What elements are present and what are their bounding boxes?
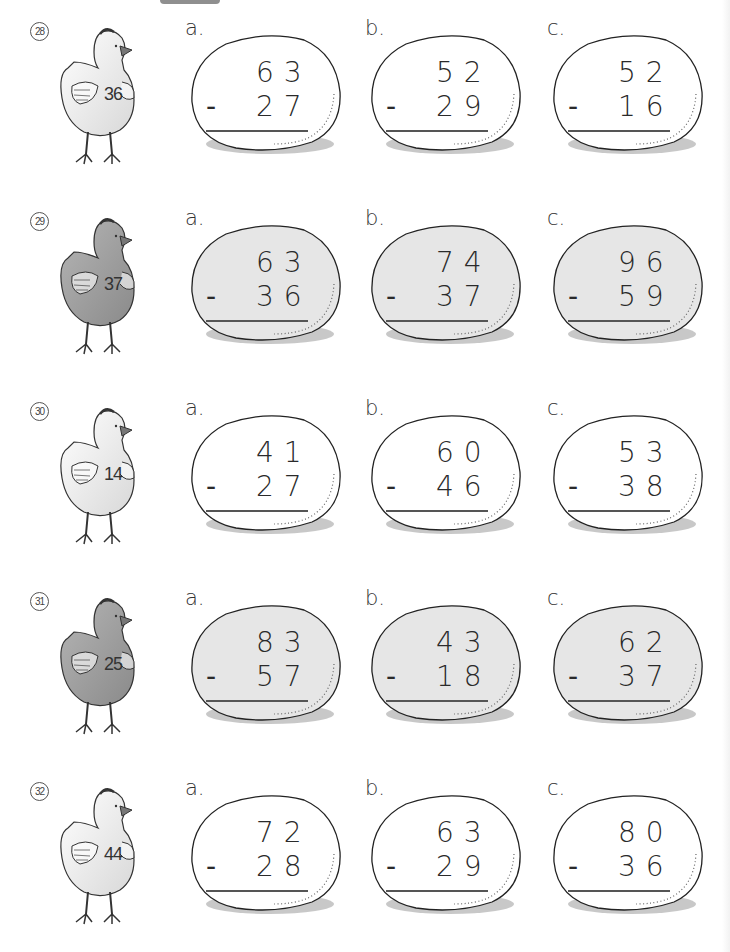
chicken-number: 44 xyxy=(104,844,122,865)
answer-line xyxy=(386,890,488,892)
problem-row: 30 14 a xyxy=(0,390,730,580)
subtrahend: 28 xyxy=(256,850,336,883)
minuend: 52 xyxy=(618,56,698,89)
minuend: 41 xyxy=(256,436,336,469)
chicken-number: 14 xyxy=(104,464,122,485)
egg: 80 - 36 xyxy=(548,792,708,918)
minuend: 60 xyxy=(436,436,516,469)
subtraction-problem: b. 52 - 29 xyxy=(362,16,532,166)
answer-area[interactable] xyxy=(216,516,306,538)
chicken-illustration: 37 xyxy=(50,212,150,362)
minus-sign: - xyxy=(386,660,396,693)
egg: 74 - 37 xyxy=(366,222,526,348)
answer-area[interactable] xyxy=(216,896,306,918)
minus-sign: - xyxy=(206,470,216,503)
answer-area[interactable] xyxy=(396,896,486,918)
chicken-icon xyxy=(50,402,150,552)
egg: 63 - 36 xyxy=(186,222,346,348)
minus-sign: - xyxy=(206,90,216,123)
minuend: 43 xyxy=(436,626,516,659)
minus-sign: - xyxy=(568,90,578,123)
minuend: 63 xyxy=(256,246,336,279)
answer-line xyxy=(568,890,670,892)
subtrahend: 29 xyxy=(436,850,516,883)
minus-sign: - xyxy=(568,280,578,313)
answer-line xyxy=(386,320,488,322)
minus-sign: - xyxy=(386,850,396,883)
chicken-number: 36 xyxy=(104,84,122,105)
subtrahend: 27 xyxy=(256,90,336,123)
minus-sign: - xyxy=(206,280,216,313)
problem-row: 29 37 a xyxy=(0,200,730,390)
top-edge-artifact xyxy=(160,0,220,4)
subtraction-problem: b. 63 - 29 xyxy=(362,776,532,926)
answer-area[interactable] xyxy=(578,896,668,918)
answer-line xyxy=(206,510,308,512)
subtrahend: 38 xyxy=(618,470,698,503)
answer-line xyxy=(206,700,308,702)
problem-number: 31 xyxy=(30,592,49,611)
subtraction-problem: a. 41 - 27 xyxy=(182,396,352,546)
subtraction-problem: c. 52 - 16 xyxy=(544,16,714,166)
answer-area[interactable] xyxy=(578,516,668,538)
minuend: 63 xyxy=(436,816,516,849)
egg: 60 - 46 xyxy=(366,412,526,538)
egg: 63 - 29 xyxy=(366,792,526,918)
answer-area[interactable] xyxy=(216,706,306,728)
answer-area[interactable] xyxy=(216,136,306,158)
answer-line xyxy=(568,510,670,512)
answer-line xyxy=(206,890,308,892)
egg: 41 - 27 xyxy=(186,412,346,538)
answer-line xyxy=(386,130,488,132)
minus-sign: - xyxy=(386,90,396,123)
chicken-icon xyxy=(50,22,150,172)
subtraction-problem: c. 96 - 59 xyxy=(544,206,714,356)
answer-area[interactable] xyxy=(578,136,668,158)
egg: 52 - 29 xyxy=(366,32,526,158)
answer-area[interactable] xyxy=(216,326,306,348)
answer-line xyxy=(206,320,308,322)
answer-line xyxy=(206,130,308,132)
problem-number: 29 xyxy=(30,212,49,231)
answer-line xyxy=(386,510,488,512)
egg: 43 - 18 xyxy=(366,602,526,728)
minuend: 83 xyxy=(256,626,336,659)
answer-area[interactable] xyxy=(396,706,486,728)
subtraction-problem: a. 72 - 28 xyxy=(182,776,352,926)
subtraction-problem: b. 74 - 37 xyxy=(362,206,532,356)
subtraction-problem: b. 43 - 18 xyxy=(362,586,532,736)
subtraction-problem: a. 83 - 57 xyxy=(182,586,352,736)
answer-area[interactable] xyxy=(396,326,486,348)
answer-area[interactable] xyxy=(396,516,486,538)
minuend: 53 xyxy=(618,436,698,469)
subtraction-problem: c. 62 - 37 xyxy=(544,586,714,736)
chicken-icon xyxy=(50,212,150,362)
answer-area[interactable] xyxy=(578,706,668,728)
answer-line xyxy=(568,700,670,702)
subtrahend: 57 xyxy=(256,660,336,693)
egg: 62 - 37 xyxy=(548,602,708,728)
minuend: 74 xyxy=(436,246,516,279)
egg: 72 - 28 xyxy=(186,792,346,918)
chicken-icon xyxy=(50,592,150,742)
subtrahend: 59 xyxy=(618,280,698,313)
subtrahend: 46 xyxy=(436,470,516,503)
answer-area[interactable] xyxy=(578,326,668,348)
chicken-illustration: 36 xyxy=(50,22,150,172)
subtraction-problem: b. 60 - 46 xyxy=(362,396,532,546)
chicken-icon xyxy=(50,782,150,932)
minuend: 96 xyxy=(618,246,698,279)
answer-line xyxy=(568,130,670,132)
minus-sign: - xyxy=(568,850,578,883)
minus-sign: - xyxy=(206,660,216,693)
minus-sign: - xyxy=(386,470,396,503)
subtrahend: 27 xyxy=(256,470,336,503)
chicken-number: 37 xyxy=(104,274,122,295)
egg: 53 - 38 xyxy=(548,412,708,538)
answer-area[interactable] xyxy=(396,136,486,158)
subtrahend: 16 xyxy=(618,90,698,123)
subtrahend: 36 xyxy=(618,850,698,883)
minus-sign: - xyxy=(568,660,578,693)
minus-sign: - xyxy=(568,470,578,503)
minuend: 80 xyxy=(618,816,698,849)
